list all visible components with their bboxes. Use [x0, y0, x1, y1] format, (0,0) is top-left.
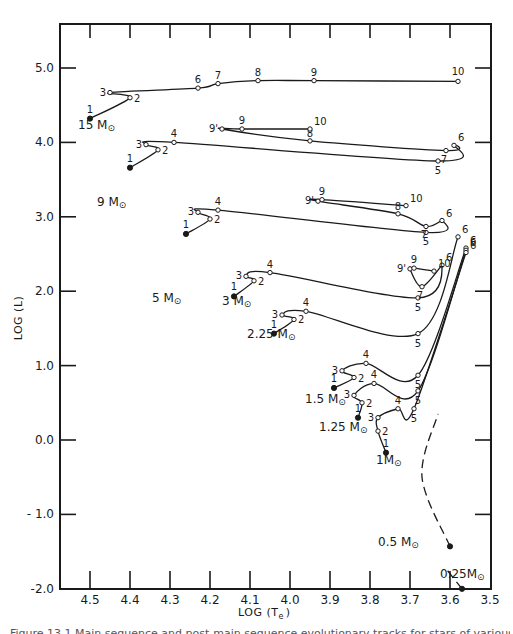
track-point [444, 148, 448, 152]
x-axis-label: LOG (Te) [238, 606, 291, 621]
track-line [354, 250, 466, 417]
point-label: 6 [470, 240, 476, 251]
track-point [352, 375, 356, 379]
track-point [416, 389, 420, 393]
track-1-msun: 123456 [368, 240, 477, 456]
track-point [256, 78, 260, 82]
point-label: 4 [371, 369, 377, 380]
x-tick-label: 3.5 [480, 593, 499, 607]
track-line [90, 80, 458, 118]
mass-label-m025: 0.25M⊙ [440, 567, 485, 582]
point-label: 4 [395, 395, 401, 406]
point-label: 2 [298, 314, 304, 325]
mass-label-m125: 1.25 M⊙ [319, 420, 367, 435]
point-label: 10 [438, 258, 451, 269]
track-point [331, 385, 336, 390]
track-point [360, 401, 364, 405]
hr-diagram-chart: 4.54.44.34.24.14.03.93.83.73.63.5 5.04.0… [0, 0, 513, 634]
point-label: 8 [255, 67, 261, 78]
track-point [244, 274, 248, 278]
track-9-msun: 123456789'910 [127, 115, 465, 176]
point-label: 9' [397, 263, 406, 274]
y-tick-label: 5.0 [35, 61, 54, 75]
point-label: 10 [314, 116, 327, 127]
track-point [424, 224, 428, 228]
mass-label-m15b: 1.5 M⊙ [305, 392, 346, 407]
figure-caption: Figure 13.1 Main sequence and post-main … [10, 626, 510, 634]
mass-label-m3: 3 M⊙ [222, 294, 251, 309]
x-tick-label: 4.1 [240, 593, 259, 607]
x-tick-label: 4.0 [280, 593, 299, 607]
track-point [292, 317, 296, 321]
y-tick-label: 1.0 [35, 359, 54, 373]
point-label: 6 [458, 132, 464, 143]
x-tick-label: 4.4 [120, 593, 139, 607]
track-point [416, 373, 420, 377]
point-label: 6 [462, 224, 468, 235]
point-label: 3 [272, 309, 278, 320]
point-label: 4 [171, 128, 177, 139]
point-label: 1 [183, 219, 189, 230]
track-point [420, 285, 424, 289]
point-label: 3 [332, 365, 338, 376]
track-point [464, 250, 468, 254]
point-label: 9 [239, 115, 245, 126]
track-line [376, 253, 466, 453]
track-point [308, 139, 312, 143]
y-tick-label: 2.0 [35, 284, 54, 298]
point-label: 7 [421, 229, 427, 240]
track-point [396, 407, 400, 411]
point-label: 2 [366, 398, 372, 409]
point-label: 2 [162, 145, 168, 156]
track-point [156, 148, 160, 152]
track-point [396, 212, 400, 216]
track-point [144, 142, 148, 146]
y-tick-label: 3.0 [35, 210, 54, 224]
track-point [320, 197, 324, 201]
track-point [340, 369, 344, 373]
point-label: 1 [87, 104, 93, 115]
x-tick-label: 3.6 [440, 593, 459, 607]
point-label: 2 [134, 93, 140, 104]
point-label: 5 [411, 413, 417, 424]
point-label: 7 [417, 290, 423, 301]
track-point [308, 127, 312, 131]
y-tick-label: 0.0 [35, 433, 54, 447]
track-point [196, 210, 200, 214]
mass-label-m225: 2.25 M⊙ [247, 327, 295, 342]
track-point [268, 270, 272, 274]
mass-label-m5: 5 M⊙ [152, 291, 181, 306]
track-point [312, 78, 316, 82]
track-point [128, 96, 132, 100]
track-0.5-msun [422, 414, 453, 549]
point-label: 1 [383, 438, 389, 449]
point-label: 1 [127, 153, 133, 164]
point-label: 6 [195, 74, 201, 85]
mass-label-m9: 9 M⊙ [97, 195, 126, 210]
track-point [352, 393, 356, 397]
track-point [216, 208, 220, 212]
track-point [456, 235, 460, 239]
mass-labels: 15 M⊙9 M⊙5 M⊙3 M⊙2.25 M⊙1.5 M⊙1.25 M⊙1M⊙… [78, 118, 485, 582]
point-label: 5 [415, 338, 421, 349]
track-point [416, 331, 420, 335]
track-point [376, 429, 380, 433]
point-label: 9' [305, 195, 314, 206]
mass-label-m15: 15 M⊙ [78, 118, 115, 133]
y-tick-label: -2.0 [31, 582, 54, 596]
point-label: 2 [258, 276, 264, 287]
track-3-msun: 12345679'910 [231, 252, 453, 313]
mass-label-m05: 0.5 M⊙ [378, 535, 419, 550]
track-point [216, 81, 220, 85]
point-label: 5 [415, 302, 421, 313]
mass-label-m1: 1M⊙ [376, 453, 402, 468]
plot-frame [60, 24, 491, 589]
point-label: 3 [368, 412, 374, 423]
track-point [456, 79, 460, 83]
track-point [240, 127, 244, 131]
track-point [452, 143, 456, 147]
x-tick-label: 3.9 [320, 593, 339, 607]
track-point [436, 159, 440, 163]
point-label: 6 [446, 208, 452, 219]
track-5-msun: 123456789'910 [183, 186, 453, 248]
